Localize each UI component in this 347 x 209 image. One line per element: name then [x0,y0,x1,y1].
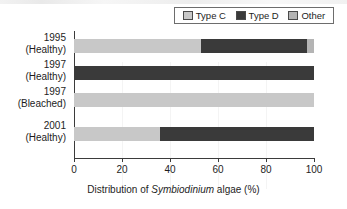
y-axis-label-1995-healthy: 1995 (Healthy) [0,32,66,55]
bar-1995-healthy [74,39,314,53]
x-tick-40 [170,158,171,162]
bar-2001-healthy [74,127,314,141]
y-axis-label-2001-healthy: 2001 (Healthy) [0,120,66,143]
y-label-state: (Healthy) [0,71,66,83]
y-label-year: 1995 [0,32,66,44]
x-tick-60 [218,158,219,162]
legend-label-type-c: Type C [196,11,226,21]
x-axis-title-pre: Distribution of [87,184,151,195]
legend-label-type-d: Type D [249,11,279,21]
bar-segment-type-c [74,39,201,53]
x-ticklabel-60: 60 [203,164,233,176]
x-ticklabel-100: 100 [299,164,329,176]
y-label-year: 2001 [0,120,66,132]
chart-figure: Type C Type D Other 1995 (Healthy) 1997 … [0,0,347,209]
legend-swatch-type-c [183,11,193,20]
x-axis-title: Distribution of Symbiodinium algae (%) [0,184,347,196]
bar-segment-type-d [160,127,314,141]
legend-item-type-d: Type D [236,11,279,21]
x-tick-0 [74,158,75,162]
bar-segment-other [307,39,314,53]
x-axis-title-species: Symbiodinium [151,184,214,195]
y-label-year: 1997 [0,59,66,71]
bar-segment-type-c [74,93,314,107]
legend-item-other: Other [288,11,325,21]
y-label-year: 1997 [0,86,66,98]
x-tick-80 [266,158,267,162]
scan-artifact-band [0,0,347,4]
bar-segment-type-d [74,66,314,80]
legend-label-other: Other [301,11,325,21]
bar-1997-healthy [74,66,314,80]
bar-1997-bleached [74,93,314,107]
legend-item-type-c: Type C [183,11,226,21]
x-ticklabel-80: 80 [251,164,281,176]
x-tick-100 [314,158,315,162]
chart-legend: Type C Type D Other [174,7,334,24]
x-ticklabel-40: 40 [155,164,185,176]
y-axis-label-1997-healthy: 1997 (Healthy) [0,59,66,82]
y-label-state: (Healthy) [0,132,66,144]
y-label-state: (Healthy) [0,44,66,56]
plot-area [74,31,314,158]
bar-segment-type-c [74,127,160,141]
x-tick-20 [122,158,123,162]
x-ticklabel-0: 0 [59,164,89,176]
x-axis-title-post: algae (%) [214,184,260,195]
bar-segment-type-d [201,39,307,53]
legend-swatch-type-d [236,11,246,20]
legend-swatch-other [288,11,298,20]
y-axis-label-1997-bleached: 1997 (Bleached) [0,86,66,109]
y-label-state: (Bleached) [0,98,66,110]
x-axis-line [74,158,315,159]
x-ticklabel-20: 20 [107,164,137,176]
